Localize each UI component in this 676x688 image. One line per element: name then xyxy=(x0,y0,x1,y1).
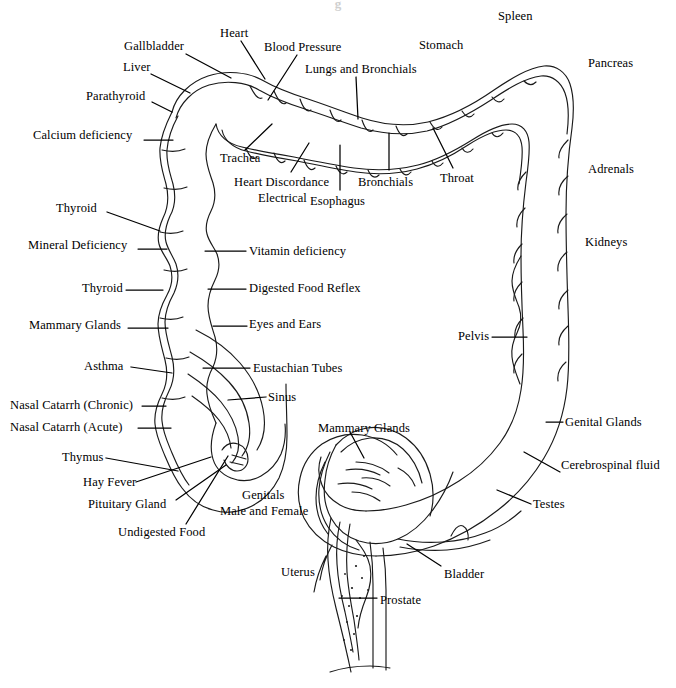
sigmoid-loop-outer xyxy=(324,445,453,543)
sigmoid-arch-detail xyxy=(352,462,390,501)
label-nasal-catarrh-acute: Nasal Catarrh (Acute) xyxy=(10,421,122,435)
label-heart: Heart xyxy=(220,27,248,41)
label-stomach: Stomach xyxy=(419,39,463,53)
leader-asthma xyxy=(131,367,172,373)
label-thyroid-lower: Thyroid xyxy=(82,282,123,296)
label-spleen: Spleen xyxy=(498,10,533,24)
label-kidneys: Kidneys xyxy=(585,236,627,250)
label-sinus: Sinus xyxy=(268,391,296,405)
label-adrenals: Adrenals xyxy=(588,163,634,177)
ascending-colon-outer-shadow xyxy=(162,116,189,485)
colon-outer-wall xyxy=(172,66,573,556)
label-liver: Liver xyxy=(123,61,151,75)
leader-parathyroid xyxy=(152,102,172,112)
rectosigmoid xyxy=(398,511,521,542)
leader-testes xyxy=(497,490,531,504)
cecum-core xyxy=(222,443,248,471)
label-pituitary-gland: Pituitary Gland xyxy=(88,498,166,512)
rectum-inner-left xyxy=(347,524,359,660)
label-hay-fever: Hay Fever xyxy=(83,476,136,490)
rectum-stipple xyxy=(341,555,369,651)
leader-hay-fever xyxy=(136,457,211,482)
label-mammary-glands-left: Mammary Glands xyxy=(29,319,121,333)
label-mammary-glands-right: Mammary Glands xyxy=(318,422,410,436)
label-vitamin-deficiency: Vitamin deficiency xyxy=(249,245,346,259)
label-bladder: Bladder xyxy=(444,568,484,582)
label-uterus: Uterus xyxy=(281,566,315,580)
label-digested-food-reflex: Digested Food Reflex xyxy=(249,282,361,296)
rectum-right-wall xyxy=(383,548,386,670)
rectum-outer-left-2 xyxy=(337,522,353,652)
label-throat: Throat xyxy=(440,172,474,186)
label-prostate: Prostate xyxy=(380,594,421,608)
leader-gallbladder xyxy=(186,54,231,78)
label-cerebrospinal-fluid: Cerebrospinal fluid xyxy=(561,459,660,473)
loop-texture xyxy=(338,468,415,489)
cecum-swirl-3 xyxy=(188,374,239,463)
label-thyroid-upper: Thyroid xyxy=(56,202,97,216)
label-genital-glands: Genital Glands xyxy=(565,416,642,430)
label-asthma: Asthma xyxy=(84,360,124,374)
label-testes: Testes xyxy=(533,498,565,512)
label-pancreas: Pancreas xyxy=(588,57,633,71)
label-calcium-deficiency: Calcium deficiency xyxy=(33,129,132,143)
cecum-valve xyxy=(230,455,246,465)
ascending-haustra xyxy=(160,149,189,399)
descending-colon-inner xyxy=(512,256,521,384)
leader-mammary-right xyxy=(350,432,364,458)
leader-trachea xyxy=(245,124,272,150)
ascending-colon-inner xyxy=(206,124,219,423)
ascending-colon-outer xyxy=(155,112,287,512)
label-nasal-catarrh-chronic: Nasal Catarrh (Chronic) xyxy=(10,399,133,413)
label-esophagus: Esophagus xyxy=(310,195,365,209)
label-trachea: Trachea xyxy=(220,152,261,166)
label-gallbladder: Gallbladder xyxy=(124,40,184,54)
rectum-bottom xyxy=(330,666,390,672)
leader-liver xyxy=(151,74,190,93)
label-eyes-and-ears: Eyes and Ears xyxy=(249,318,321,332)
label-bronchials: Bronchials xyxy=(358,176,413,190)
leader-bladder xyxy=(407,544,441,566)
label-male-and-female: Male and Female xyxy=(220,505,308,519)
rectum-mid-fold xyxy=(356,540,371,628)
label-blood-pressure: Blood Pressure xyxy=(264,41,341,55)
label-electrical: Electrical xyxy=(258,192,307,206)
label-mineral-deficiency: Mineral Deficiency xyxy=(28,239,127,253)
label-undigested-food: Undigested Food xyxy=(118,526,205,540)
colon-outer-wall-shadow xyxy=(176,76,568,134)
label-parathyroid: Parathyroid xyxy=(86,90,145,104)
label-heart-discordance: Heart Discordance xyxy=(234,176,329,190)
rectum-flare-left xyxy=(314,545,332,592)
leader-lungs xyxy=(356,77,358,119)
label-eustachian-tubes: Eustachian Tubes xyxy=(253,362,342,376)
cecum-outline xyxy=(211,423,285,480)
rectum-outer-right xyxy=(370,542,373,668)
label-thymus: Thymus xyxy=(62,451,104,465)
leader-cerebrospinal xyxy=(524,452,560,472)
colon-reflex-chart: g xyxy=(0,0,676,688)
transverse-haustra xyxy=(250,81,536,136)
leader-thyroid-upper xyxy=(107,212,160,231)
label-pelvis: Pelvis xyxy=(458,330,489,344)
label-genitals: Genitals xyxy=(242,489,284,503)
label-lungs-and-bronchials: Lungs and Bronchials xyxy=(305,63,417,77)
